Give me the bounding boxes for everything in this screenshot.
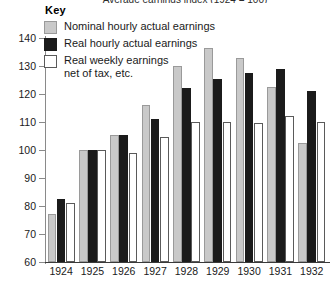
y-tick [39, 150, 45, 151]
y-tick-label: 140 [0, 33, 36, 43]
x-tick-label: 1932 [292, 266, 331, 277]
bar-real [151, 119, 160, 262]
y-tick-label: 110 [0, 117, 36, 127]
bar-weekly [66, 203, 75, 262]
x-axis-line [45, 262, 330, 263]
bar-nominal [48, 214, 57, 262]
legend-item-label: Nominal hourly actual earnings [64, 20, 215, 33]
legend-swatch-real [44, 38, 57, 51]
bar-real [57, 199, 66, 262]
bar-weekly [191, 122, 200, 262]
bar-weekly [129, 153, 138, 262]
y-tick [39, 262, 45, 263]
y-tick-label: 80 [0, 201, 36, 211]
bar-real [213, 79, 222, 262]
bar-nominal [298, 143, 307, 262]
legend-item-label: Real weekly earningsnet of tax, etc. [64, 54, 169, 80]
y-tick [39, 122, 45, 123]
bar-real [307, 91, 316, 262]
bar-weekly [317, 122, 326, 262]
bar-nominal [267, 87, 276, 262]
bar-nominal [236, 58, 245, 262]
chart-root: Average earnings index (1924 = 100) 6070… [0, 0, 335, 307]
chart-title: Average earnings index (1924 = 100) [60, 0, 310, 3]
bar-real [88, 150, 97, 262]
bar-weekly [160, 137, 169, 262]
y-tick-label: 90 [0, 173, 36, 183]
bar-real [119, 135, 128, 262]
bar-weekly [254, 123, 263, 262]
y-tick [39, 94, 45, 95]
y-tick-label: 100 [0, 145, 36, 155]
bar-nominal [173, 66, 182, 262]
bar-weekly [223, 122, 232, 262]
y-tick-label: 60 [0, 257, 36, 267]
legend-swatch-weekly [44, 55, 57, 68]
bar-nominal [110, 135, 119, 262]
bar-real [276, 69, 285, 262]
y-tick-label: 70 [0, 229, 36, 239]
bar-group [298, 38, 329, 262]
legend-item[interactable]: Nominal hourly actual earnings [44, 20, 244, 34]
y-tick [39, 234, 45, 235]
legend-title: Key [45, 4, 244, 16]
bar-nominal [79, 150, 88, 262]
bar-real [182, 88, 191, 262]
bar-nominal [142, 105, 151, 262]
legend-item[interactable]: Real weekly earningsnet of tax, etc. [44, 54, 244, 80]
y-tick-label: 130 [0, 61, 36, 71]
legend-item-label-line2: net of tax, etc. [64, 67, 169, 80]
legend: Key Nominal hourly actual earningsReal h… [44, 4, 244, 83]
legend-swatch-nominal [44, 21, 57, 34]
legend-items: Nominal hourly actual earningsReal hourl… [44, 20, 244, 80]
y-tick [39, 178, 45, 179]
bar-weekly [285, 116, 294, 262]
y-tick-label: 120 [0, 89, 36, 99]
bar-weekly [97, 150, 106, 262]
y-tick [39, 206, 45, 207]
legend-item[interactable]: Real hourly actual earnings [44, 37, 244, 51]
bar-real [245, 73, 254, 262]
bar-group [267, 38, 298, 262]
legend-item-label: Real hourly actual earnings [64, 37, 197, 50]
